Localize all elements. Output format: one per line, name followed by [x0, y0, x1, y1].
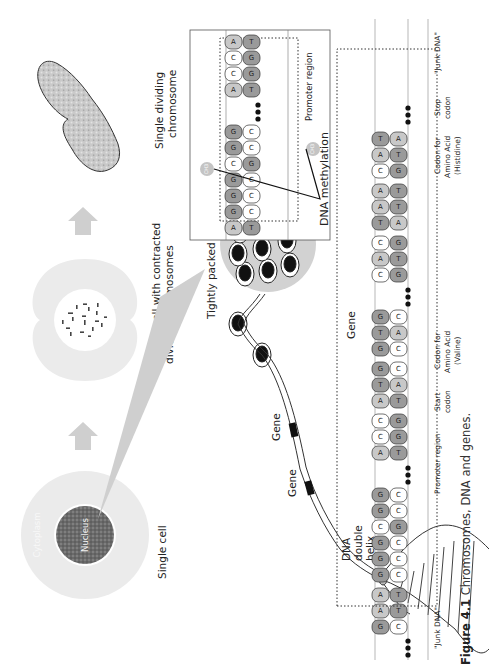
svg-text:C: C	[396, 313, 401, 321]
svg-text:T: T	[377, 329, 383, 337]
svg-text:G: G	[396, 433, 401, 441]
svg-text:G: G	[396, 167, 401, 175]
svg-text:A: A	[231, 86, 236, 94]
svg-text:T: T	[395, 607, 401, 615]
ellipsis-dot	[255, 102, 260, 107]
svg-text:A: A	[396, 135, 401, 143]
svg-text:T: T	[395, 397, 401, 405]
svg-text:T: T	[248, 38, 254, 46]
dividing-cell-illustration	[33, 259, 138, 381]
svg-text:C: C	[396, 491, 401, 499]
caption-text: Chromosomes, DNA and genes.	[459, 413, 473, 595]
svg-text:G: G	[378, 539, 383, 547]
svg-text:A: A	[378, 187, 383, 195]
svg-text:A: A	[378, 397, 383, 405]
valine-label-1: Codon for	[433, 331, 442, 369]
ellipsis-dot	[405, 119, 410, 124]
ellipsis-dot	[405, 301, 410, 306]
svg-text:A: A	[378, 449, 383, 457]
svg-text:A: A	[231, 38, 236, 46]
svg-text:A: A	[231, 224, 236, 232]
figure-canvas: Nucleus Cytoplasm Single cell Dividing c…	[0, 0, 489, 669]
svg-text:G: G	[396, 417, 401, 425]
svg-text:G: G	[378, 365, 383, 373]
svg-text:C: C	[231, 160, 236, 168]
svg-text:G: G	[231, 128, 236, 136]
figure-caption: Figure 4.1 Chromosomes, DNA and genes.	[459, 413, 473, 665]
svg-text:C: C	[231, 54, 236, 62]
svg-text:T: T	[377, 219, 383, 227]
svg-text:C: C	[396, 571, 401, 579]
svg-text:C: C	[378, 239, 383, 247]
svg-text:C: C	[396, 345, 401, 353]
arrow-icon	[68, 207, 98, 235]
svg-text:G: G	[396, 271, 401, 279]
svg-text:G: G	[378, 571, 383, 579]
svg-text:A: A	[378, 203, 383, 211]
svg-text:G: G	[231, 176, 236, 184]
svg-text:A: A	[396, 381, 401, 389]
svg-text:C: C	[249, 208, 254, 216]
caption-label: Figure 4.1	[459, 599, 473, 665]
stop-codon-label-2: codon	[443, 96, 452, 119]
gene-label-lower: Gene	[286, 469, 298, 497]
svg-text:T: T	[377, 381, 383, 389]
gene-label-upper: Gene	[270, 413, 282, 441]
helix-label-line1: DNA	[340, 537, 352, 561]
svg-text:CH3: CH3	[309, 144, 315, 154]
svg-text:C: C	[396, 555, 401, 563]
arrow-icon	[68, 422, 98, 450]
ellipsis-dot	[405, 638, 410, 643]
svg-text:G: G	[231, 192, 236, 200]
svg-text:C: C	[249, 144, 254, 152]
svg-text:T: T	[248, 86, 254, 94]
svg-text:A: A	[378, 255, 383, 263]
ellipsis-dot	[255, 109, 260, 114]
svg-text:G: G	[231, 144, 236, 152]
svg-text:G: G	[231, 208, 236, 216]
svg-text:G: G	[378, 507, 383, 515]
helix-label-line2: double	[352, 525, 364, 561]
figure-stage: Nucleus Cytoplasm Single cell Dividing c…	[0, 0, 489, 669]
svg-text:G: G	[378, 491, 383, 499]
svg-text:C: C	[396, 539, 401, 547]
svg-text:T: T	[395, 203, 401, 211]
svg-text:T: T	[395, 151, 401, 159]
histidine-label-2: Amino Acid	[443, 136, 452, 178]
valine-label-2: Amino Acid	[443, 331, 452, 373]
svg-text:C: C	[396, 507, 401, 515]
ellipsis-dot	[405, 479, 410, 484]
svg-text:G: G	[378, 555, 383, 563]
svg-text:G: G	[378, 313, 383, 321]
methylation-promoter-label: Promoter region	[304, 52, 314, 121]
svg-text:T: T	[395, 449, 401, 457]
svg-text:A: A	[378, 591, 383, 599]
chromosome-label-line1: Single dividing	[153, 72, 165, 149]
junk-dna-right-label: "Junk DNA"	[433, 32, 442, 74]
svg-text:G: G	[378, 623, 383, 631]
svg-text:C: C	[249, 192, 254, 200]
valine-label-3: (Valine)	[453, 336, 462, 365]
nucleus-label: Nucleus	[80, 518, 90, 552]
ellipsis-dot	[405, 294, 410, 299]
svg-text:C: C	[231, 70, 236, 78]
svg-text:T: T	[395, 255, 401, 263]
svg-text:C: C	[378, 167, 383, 175]
svg-text:G: G	[396, 523, 401, 531]
svg-text:T: T	[395, 187, 401, 195]
svg-text:C: C	[378, 523, 383, 531]
svg-text:A: A	[378, 607, 383, 615]
start-codon-label-1: Start	[433, 393, 442, 411]
gene-strip: GCATATGCGCGCCGGCGCATCGCGATTAGCGCTAGCCGAT…	[337, 19, 437, 660]
svg-text:G: G	[249, 160, 254, 168]
ellipsis-dot	[255, 116, 260, 121]
svg-text:C: C	[378, 433, 383, 441]
cytoplasm-label: Cytoplasm	[32, 512, 42, 557]
svg-text:A: A	[396, 219, 401, 227]
svg-text:C: C	[249, 128, 254, 136]
ellipsis-dot	[405, 645, 410, 650]
promoter-label: Promoter region	[433, 433, 442, 494]
ellipsis-dot	[405, 105, 410, 110]
svg-text:CH3: CH3	[203, 164, 209, 174]
svg-text:T: T	[395, 591, 401, 599]
